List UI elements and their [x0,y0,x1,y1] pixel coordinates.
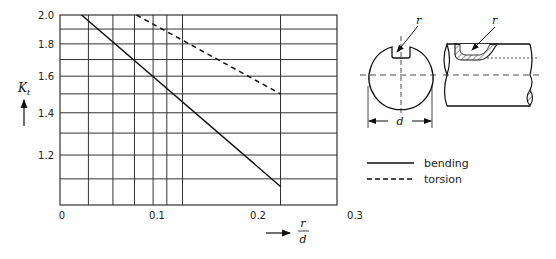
legend-label-bending: bending [424,157,469,170]
svg-text:0.3: 0.3 [347,210,363,221]
svg-text:Kt: Kt [17,81,31,97]
svg-text:0: 0 [59,210,65,221]
series-torsion [136,15,280,94]
x-axis-ticks: 00.10.20.3 [59,210,363,221]
chart-legend: bending torsion [367,157,469,186]
y-axis-ticks: 2.01.81.61.41.2 [38,10,54,161]
svg-text:0.2: 0.2 [250,210,266,221]
chart-grid [60,15,337,205]
svg-text:0.1: 0.1 [149,210,165,221]
x-axis-label: r d [266,217,309,246]
svg-text:1.2: 1.2 [38,150,54,161]
svg-text:1.4: 1.4 [38,108,54,119]
svg-text:1.6: 1.6 [38,71,54,82]
svg-text:r: r [300,217,306,230]
svg-text:2.0: 2.0 [38,10,54,21]
svg-text:d: d [396,115,403,128]
svg-text:d: d [299,233,306,246]
svg-text:r: r [492,14,498,27]
chart-series [82,15,281,186]
shaft-side-view-diagram: r [443,14,540,106]
svg-text:r: r [416,14,422,27]
stress-concentration-chart: 2.01.81.61.41.2 00.10.20.3 Kt r d r d [0,0,556,259]
y-axis-label: Kt [17,81,31,126]
cross-section-diagram: r d [360,14,440,128]
series-bending [82,15,281,186]
legend-label-torsion: torsion [424,173,462,186]
svg-text:1.8: 1.8 [38,39,54,50]
